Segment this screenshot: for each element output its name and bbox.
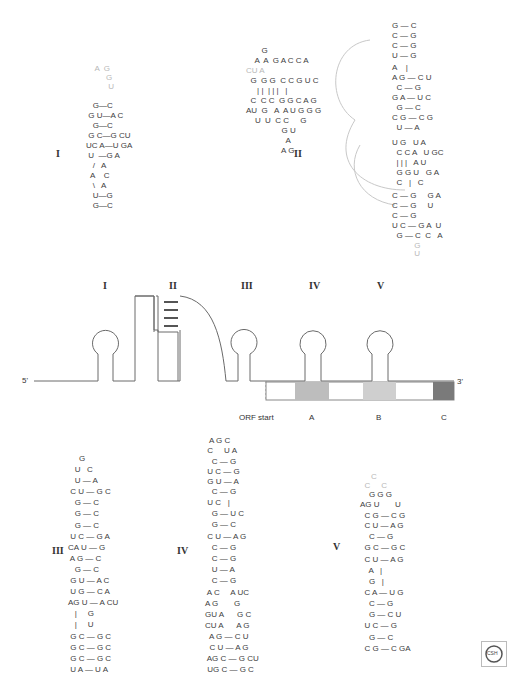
nt-row: G—C [86, 202, 113, 210]
stem-II-base-pairs [164, 302, 178, 326]
nt-row: C — G [360, 533, 393, 541]
nt-row: AG C — G CU [205, 655, 259, 663]
nt-row: U C — G A U [392, 222, 441, 230]
nt-row: G — C [68, 522, 99, 530]
nt-row: U C — G [205, 468, 240, 476]
nt-row: G — C [68, 499, 99, 507]
nt-row: U — A [392, 124, 420, 132]
nt-row: G C — G C [360, 544, 405, 552]
nt-row: C — G [392, 32, 416, 40]
nt-row: U C — G [360, 622, 397, 630]
nt-row: G — C [205, 521, 236, 529]
nt-row: C — G [205, 544, 236, 552]
nt-row: C C [360, 482, 387, 490]
nt-row: A G C [205, 437, 230, 445]
nt-row: A A G A C C A [246, 57, 309, 65]
nt-row: C U — A G [360, 522, 404, 530]
nt-row: C — G [205, 555, 236, 563]
nt-row: U A — U A [68, 666, 108, 674]
nt-row: C G — C G [392, 114, 433, 122]
nt-row: G—C [86, 102, 113, 110]
nt-row: G — C U [360, 611, 401, 619]
nt-row: C — G G A [392, 192, 441, 200]
nt-row: C — G [392, 42, 416, 50]
structure-IV-label: IV [177, 545, 188, 556]
nt-row: G [246, 47, 268, 55]
region-A [295, 382, 329, 400]
nt-row: U [392, 250, 420, 258]
nt-row: C C A U GC [392, 149, 444, 157]
orf-bar [266, 381, 454, 400]
nt-row: C — G [392, 84, 421, 92]
schematic-label-I: I [103, 280, 107, 291]
nt-row: G G U G A [392, 169, 439, 177]
nt-row: A G G [205, 600, 240, 608]
schematic-label-V: V [377, 280, 384, 291]
region-C-label: C [441, 413, 447, 422]
nt-row: C U — G C [68, 488, 111, 496]
nt-row: U C [68, 466, 93, 474]
nt-row: CU A [246, 67, 271, 75]
structure-I-label: I [56, 148, 60, 159]
nt-row: G — C [68, 566, 99, 574]
nt-row: UG C — G C [205, 666, 254, 674]
nt-row: U G U A [392, 139, 426, 147]
csh-logo: CSH [481, 641, 507, 667]
nt-row: A [246, 137, 291, 145]
nt-row: CU A A G [205, 622, 249, 630]
nt-row: AU G A A U G G G [246, 107, 321, 115]
nt-row: | G [68, 610, 94, 618]
nt-row: | | | | | | [246, 87, 287, 95]
region-A-label: A [309, 413, 314, 422]
nt-row: G U [246, 127, 296, 135]
nt-row: GU A G C [205, 611, 251, 619]
nt-row: A G — C [68, 555, 101, 563]
nt-row: U — A [205, 566, 235, 574]
region-B [363, 382, 396, 400]
schematic-label-III: III [241, 280, 253, 291]
nt-row: C — G [205, 458, 236, 466]
nt-row: G — C C A [392, 232, 443, 240]
csh-logo-text: CSH [487, 650, 498, 656]
three-prime-label: 3' [457, 377, 463, 386]
stem-IV [266, 331, 326, 381]
nt-row: G | [360, 578, 384, 586]
nt-row: G — C [360, 634, 393, 642]
nt-row: A G [246, 147, 294, 155]
nt-row: A G [86, 65, 114, 73]
nt-row: A | [392, 64, 408, 72]
nt-row: U G — C A [68, 588, 110, 596]
structure-II-label: II [294, 148, 302, 159]
orf-start-label: ORF start [239, 413, 274, 422]
stem-II-right [158, 296, 266, 381]
nt-row: U U C C G [246, 117, 306, 125]
nt-row: C G — C G [360, 512, 405, 520]
nt-row: | | | A U [392, 159, 426, 167]
nt-row: UC A—U GA [86, 142, 132, 150]
nt-row: G C—G CU [86, 132, 130, 140]
nt-row: G U — A C [68, 577, 109, 585]
nt-row: G — C [68, 510, 99, 518]
nt-row: C G — C GA [360, 645, 411, 653]
nt-row: U — A [68, 477, 98, 485]
nt-row: CA U — G [68, 544, 105, 552]
structure-V-label: V [333, 541, 340, 552]
nt-row: C U — A G [360, 556, 404, 564]
region-C [433, 382, 454, 400]
stem-II-left [135, 296, 154, 332]
nt-row: G G G C C G U C [246, 77, 318, 85]
nt-row: C [360, 473, 377, 481]
nt-row: U [86, 83, 114, 91]
nt-row: | U [68, 621, 94, 629]
nt-row: C U — A G [205, 644, 249, 652]
stem-II-top [156, 296, 158, 332]
nt-row: A | [360, 567, 382, 575]
nt-row: A G — C U [205, 633, 249, 641]
nt-row: AG U — A CU [68, 599, 118, 607]
nt-row: C — G U [392, 202, 433, 210]
stem-V [321, 331, 454, 381]
nt-row: G G G [360, 491, 392, 499]
nt-row: AG U U [360, 501, 401, 509]
structure-III-label: III [52, 545, 64, 556]
nt-row: C A — U G [360, 589, 404, 597]
